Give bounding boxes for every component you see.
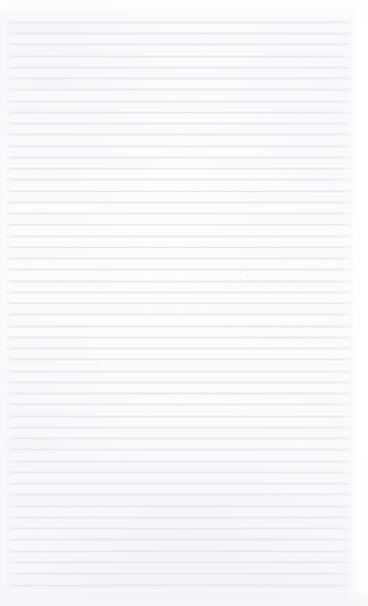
rule-line [5,101,354,102]
rule-line [5,573,354,574]
rule-line [5,427,354,428]
rule-line [5,258,354,259]
rule-line [5,236,354,237]
rule-line [5,179,354,180]
rule-line [5,44,354,45]
rule-line [5,326,354,327]
rule-line [5,134,354,135]
rule-line [5,382,354,383]
rule-line [5,22,354,23]
rule-line [5,112,354,113]
rule-line [5,281,354,282]
rule-line [5,269,354,270]
rule-line [5,123,354,124]
rule-line [5,494,354,495]
rule-line [5,146,354,147]
rule-line [5,359,354,360]
rule-line [5,247,354,248]
rule-line [5,303,354,304]
rule-line [5,449,354,450]
rule-line [5,168,354,169]
ruled-lines-group [0,0,368,606]
rule-line [5,562,354,563]
ruled-paper-sheet [0,0,368,606]
rule-line [5,393,354,394]
rule-line [5,517,354,518]
rule-line [5,348,354,349]
rule-line [5,585,354,586]
rule-line [5,56,354,57]
rule-line [5,551,354,552]
rule-line [5,224,354,225]
rule-line [5,371,354,372]
rule-line [5,539,354,540]
rule-line [5,213,354,214]
rule-line [5,78,354,79]
rule-line [5,461,354,462]
rule-line [5,528,354,529]
rule-line [5,33,354,34]
rule-line [5,404,354,405]
rule-line [5,438,354,439]
rule-line [5,472,354,473]
rule-line [5,416,354,417]
rule-line [5,314,354,315]
rule-line [5,191,354,192]
rule-line [5,337,354,338]
rule-line [5,506,354,507]
rule-line [5,67,354,68]
rule-line [5,483,354,484]
rule-line [5,89,354,90]
rule-line [5,292,354,293]
rule-line [5,157,354,158]
rule-line [5,202,354,203]
